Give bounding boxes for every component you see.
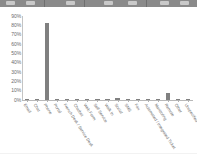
- x-axis-tick: [87, 100, 88, 102]
- bar[interactable]: [45, 23, 49, 100]
- chart-screenshot-root: 90%80%70%60%50%40%30%20%10%0% EmailChatP…: [0, 0, 197, 154]
- y-axis-tick-labels: 90%80%70%60%50%40%30%20%10%0%: [0, 16, 21, 100]
- x-axis-tick: [67, 100, 68, 102]
- toolbar-button-2[interactable]: [26, 1, 35, 5]
- bottom-edge-divider: [0, 153, 197, 154]
- x-axis-category-label: Unspecified: [183, 103, 197, 123]
- x-axis-tick: [27, 100, 28, 102]
- y-axis-tick-label: 50%: [1, 51, 21, 56]
- x-axis-category-label: Email: [22, 103, 31, 114]
- y-axis-tick-label: 40%: [1, 60, 21, 65]
- x-axis-category-label: Fax: [133, 103, 141, 111]
- y-axis-tick-label: 70%: [1, 32, 21, 37]
- plot-area: [22, 16, 193, 100]
- toolbar-separator-3: [146, 0, 147, 7]
- x-axis-tick: [57, 100, 58, 102]
- y-axis-tick-label: 90%: [1, 14, 21, 19]
- bar-chart[interactable]: 90%80%70%60%50%40%30%20%10%0% EmailChatP…: [0, 7, 197, 154]
- x-axis-tick: [47, 100, 48, 102]
- x-axis-tick: [188, 100, 189, 102]
- toolbar-button-4[interactable]: [104, 1, 113, 5]
- x-axis-tick: [77, 100, 78, 102]
- y-axis-tick-label: 20%: [1, 79, 21, 84]
- y-axis-tick-label: 10%: [1, 88, 21, 93]
- application-toolbar-strip[interactable]: [0, 0, 197, 7]
- toolbar-button-5[interactable]: [128, 1, 137, 5]
- toolbar-button-7[interactable]: [180, 1, 189, 5]
- y-axis-tick-label: 30%: [1, 70, 21, 75]
- x-axis-tick: [37, 100, 38, 102]
- toolbar-button-3[interactable]: [66, 1, 75, 5]
- x-axis-category-label: Chat: [32, 103, 41, 113]
- toolbar-separator-1: [44, 0, 45, 7]
- x-axis-tick: [97, 100, 98, 102]
- toolbar-separator-2: [84, 0, 85, 7]
- y-axis-tick-label: 60%: [1, 42, 21, 47]
- y-axis-tick-label: 80%: [1, 23, 21, 28]
- x-axis-category-label: Portal: [52, 103, 62, 114]
- y-axis-tick-label: 0%: [1, 98, 21, 103]
- x-axis-tick: [178, 100, 179, 102]
- toolbar-button-1[interactable]: [6, 1, 15, 5]
- toolbar-button-6[interactable]: [160, 1, 169, 5]
- toolbar-items: [0, 0, 197, 7]
